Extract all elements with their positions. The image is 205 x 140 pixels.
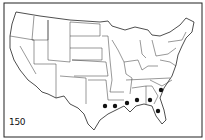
occurrence-dot	[125, 101, 129, 105]
occurrence-dot	[113, 104, 117, 108]
us-map	[0, 0, 205, 140]
us-outline	[10, 12, 194, 130]
figure-number: 150	[9, 117, 25, 127]
occurrence-dot	[148, 98, 152, 102]
occurrence-dot	[159, 88, 163, 92]
occurrence-dot	[135, 98, 139, 102]
occurrence-dot	[103, 104, 107, 108]
occurrence-dot	[156, 109, 160, 113]
